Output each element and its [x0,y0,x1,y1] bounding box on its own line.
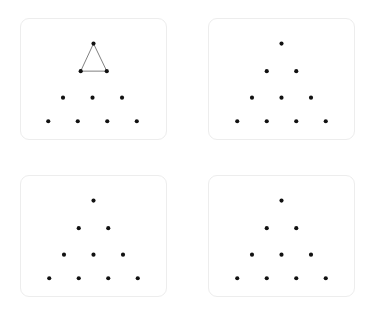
lattice-dot[interactable] [47,276,51,280]
lattice-dot[interactable] [90,95,94,99]
lattice-dot[interactable] [135,119,139,123]
panel-cell-top-left [0,0,187,157]
panel-cell-top-right [187,0,375,157]
lattice-dot[interactable] [308,95,312,99]
lattice-dot[interactable] [76,119,80,123]
lattice-dot[interactable] [308,252,312,256]
lattice-dot[interactable] [264,69,268,73]
lattice-dot[interactable] [294,69,298,73]
lattice-dot[interactable] [279,41,283,45]
lattice-dot[interactable] [105,119,109,123]
lattice-dot[interactable] [62,252,66,256]
lattice-dot[interactable] [61,95,65,99]
lattice-dot[interactable] [249,95,253,99]
panel-card-bottom-left[interactable] [20,175,167,297]
lattice-dot[interactable] [120,95,124,99]
lattice-dot[interactable] [323,119,327,123]
dot-layer-bottom-right [209,176,354,296]
lattice-dot[interactable] [106,276,110,280]
lattice-dot[interactable] [77,276,81,280]
lattice-dot[interactable] [77,226,81,230]
lattice-dot[interactable] [279,198,283,202]
panel-grid [0,0,375,314]
lattice-dot[interactable] [279,252,283,256]
lattice-dot[interactable] [323,276,327,280]
lattice-dot[interactable] [235,276,239,280]
lattice-dot[interactable] [79,69,83,73]
dot-layer-bottom-left [21,176,166,296]
panel-card-top-right[interactable] [208,18,355,140]
lattice-dot[interactable] [46,119,50,123]
lattice-dot[interactable] [294,119,298,123]
lattice-dot[interactable] [264,226,268,230]
lattice-dot[interactable] [235,119,239,123]
lattice-dot[interactable] [105,69,109,73]
panel-cell-bottom-left [0,157,187,314]
lattice-dot[interactable] [249,252,253,256]
lattice-dot[interactable] [264,119,268,123]
triangle-overlay [81,43,107,71]
panel-card-top-left[interactable] [20,18,167,140]
lattice-dot[interactable] [91,41,95,45]
lattice-dot[interactable] [121,252,125,256]
lattice-dot[interactable] [91,252,95,256]
dot-puzzle-board [0,0,375,314]
lattice-dot[interactable] [264,276,268,280]
panel-card-bottom-right[interactable] [208,175,355,297]
dot-layer-top-right [209,19,354,139]
lattice-dot[interactable] [106,226,110,230]
panel-cell-bottom-right [187,157,375,314]
lattice-dot[interactable] [294,276,298,280]
lattice-dot[interactable] [136,276,140,280]
lattice-dot[interactable] [279,95,283,99]
dot-layer-top-left [21,19,166,139]
lattice-dot[interactable] [294,226,298,230]
lattice-dot[interactable] [91,198,95,202]
